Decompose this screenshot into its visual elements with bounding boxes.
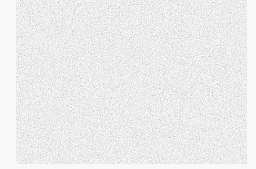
image-canvas xyxy=(0,0,256,169)
static-noise-field xyxy=(16,0,247,164)
noise-texture xyxy=(16,0,247,164)
